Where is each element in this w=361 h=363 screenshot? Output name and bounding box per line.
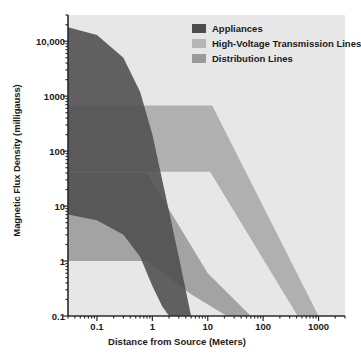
x-axis-title: Distance from Source (Meters)	[0, 336, 354, 347]
y-tick-label: 1000	[44, 91, 65, 102]
x-tick-label: 100	[255, 321, 271, 332]
legend-item: Distribution Lines	[192, 53, 361, 64]
x-tick-label: 1	[150, 321, 155, 332]
y-tick-label: 0.1	[52, 311, 65, 322]
y-tick-label: 10	[54, 201, 65, 212]
legend-swatch-icon	[192, 54, 206, 63]
y-tick-label: 10,000	[36, 36, 65, 47]
x-tick-label: 0.1	[90, 321, 103, 332]
y-tick-label: 100	[49, 146, 65, 157]
legend-swatch-icon	[192, 39, 206, 48]
x-tick-label: 1000	[308, 321, 329, 332]
legend-item-label: High-Voltage Transmission Lines	[212, 38, 361, 49]
chart-legend: AppliancesHigh-Voltage Transmission Line…	[192, 23, 361, 64]
legend-item-label: Appliances	[212, 23, 263, 34]
y-tick-label: 1	[60, 256, 65, 267]
legend-item: High-Voltage Transmission Lines	[192, 38, 361, 49]
legend-item: Appliances	[192, 23, 361, 34]
legend-swatch-icon	[192, 24, 206, 33]
x-tick-label: 10	[202, 321, 213, 332]
legend-item-label: Distribution Lines	[212, 53, 293, 64]
